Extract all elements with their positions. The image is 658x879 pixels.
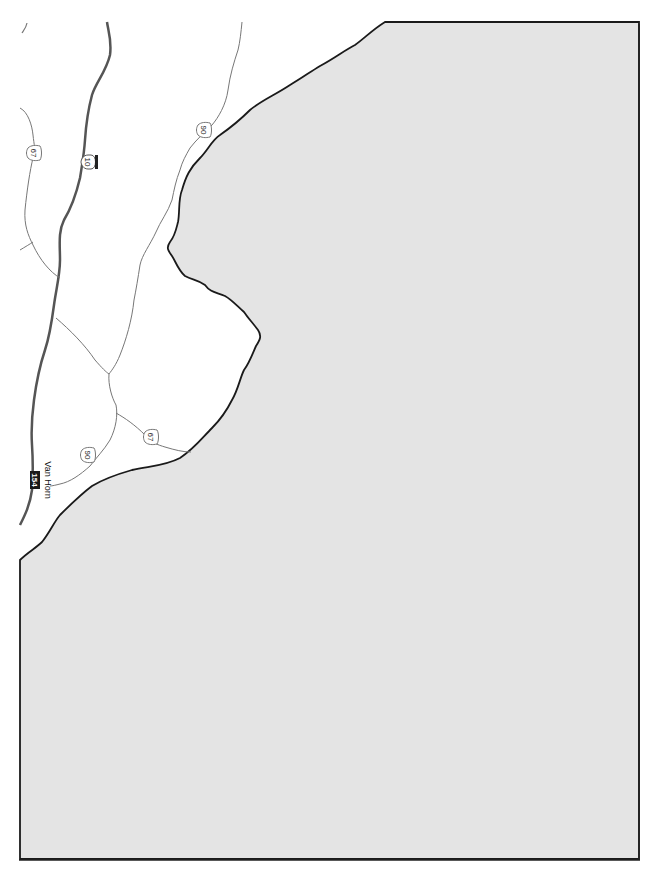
shaded-region <box>20 22 639 859</box>
route-67-south-label: 67 <box>146 433 155 442</box>
us-highway-shield-icon: 67 <box>144 429 159 444</box>
us-highway-shield-icon: 90 <box>81 447 96 462</box>
town-van-horn[interactable]: Van Horn <box>43 461 53 498</box>
road-fragment-top-left <box>22 23 27 33</box>
us-highway-shield-icon: 67 <box>27 145 42 160</box>
interstate-shield-icon: 10 <box>81 155 98 169</box>
route-10-label: 10 <box>83 158 92 167</box>
town-label-van-horn: Van Horn <box>43 461 53 498</box>
route-90-south-label: 90 <box>83 451 92 460</box>
road-connector[interactable] <box>56 318 109 374</box>
road-us-90-south[interactable] <box>50 374 117 486</box>
road-spur-left <box>20 242 33 250</box>
route-90-north-label: 90 <box>199 126 208 135</box>
road-us-67-north[interactable] <box>20 108 60 278</box>
route-67-north-label: 67 <box>29 149 38 158</box>
exit-number-icon: 154 <box>30 471 40 489</box>
road-interstate-10[interactable] <box>20 22 111 525</box>
road-us-90-mid[interactable] <box>109 300 134 374</box>
map-canvas[interactable]: 67 10 90 90 67 154 Van Horn <box>0 0 658 879</box>
exit-154-label: 154 <box>30 473 39 487</box>
us-highway-shield-icon: 90 <box>197 122 212 137</box>
